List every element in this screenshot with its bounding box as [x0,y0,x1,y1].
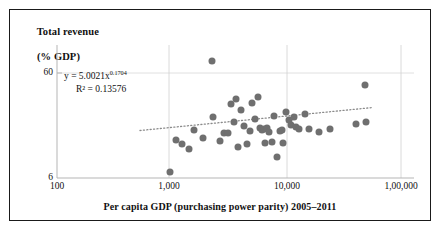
data-point [280,140,287,147]
data-point [362,82,369,89]
x-axis-label: Per capita GDP (purchasing power parity)… [9,201,431,212]
data-point [241,123,248,130]
data-point [244,141,251,148]
y-axis-tick-60: 60 [29,67,53,77]
data-point [306,126,313,133]
data-point [291,114,298,121]
data-point [191,127,198,134]
data-point [231,119,238,126]
data-point [238,107,245,114]
data-point [217,138,224,145]
data-point [233,96,240,103]
data-point [186,146,193,153]
data-point [262,140,269,147]
figure-container: Total revenue (% GDP) [0,0,442,233]
data-points [167,58,370,176]
equation-text: y = 5.0021x [64,71,110,81]
x-axis-tick-10000: 10,000 [260,181,314,191]
data-point [296,126,303,133]
data-point [252,116,259,123]
equation-exponent: 0.1704 [110,69,127,76]
data-point [235,144,242,151]
data-point [363,119,370,126]
data-point [209,58,216,65]
data-point [353,121,360,128]
r-squared-text: R² = 0.13576 [64,83,127,96]
x-axis-tick-100000: 1,00,000 [372,181,430,191]
gridlines [57,45,414,178]
data-point [327,126,334,133]
scatter-plot [0,0,442,233]
data-point [279,127,286,134]
data-point [173,137,180,144]
data-point [316,129,323,136]
data-point [179,141,186,148]
data-point [200,135,207,142]
x-axis-tick-100: 100 [37,181,77,191]
data-point [283,109,290,116]
data-point [249,100,256,107]
data-point [247,128,254,135]
data-point [225,130,232,137]
data-point [266,129,273,136]
data-point [255,94,262,101]
x-axis-tick-1000: 1,000 [145,181,193,191]
data-point [210,114,217,121]
data-point [228,101,235,108]
data-point [271,113,278,120]
plot-axes [57,45,414,178]
data-point [167,169,174,176]
data-point [302,111,309,118]
data-point [274,154,281,161]
data-point [269,139,276,146]
trendline-equation-annotation: y = 5.0021x0.1704 R² = 0.13576 [64,70,127,95]
